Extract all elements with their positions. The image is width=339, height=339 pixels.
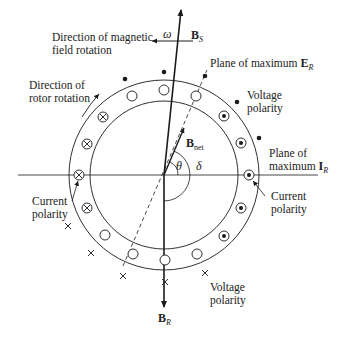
conductor-dot <box>236 203 246 213</box>
bnet-label: Bnet <box>186 137 204 154</box>
conductor-empty <box>127 91 137 101</box>
theta-label: θ <box>176 160 182 173</box>
conductor-cross <box>74 170 84 180</box>
rotor-rotation-label: Direction of rotor rotation <box>29 79 90 105</box>
bs-label-sub: S <box>199 35 203 44</box>
conductor-empty <box>128 249 138 259</box>
conductor-cross <box>82 139 92 149</box>
current-polarity-right-line1: Current <box>271 190 307 203</box>
br-label-sub: R <box>166 318 171 327</box>
plane-max-ir-line2: maximum IR <box>269 160 328 177</box>
plane-max-er-text: Plane of maximum <box>210 57 300 69</box>
conductor-dot <box>219 231 229 241</box>
conductor-empty <box>100 230 110 240</box>
bnet-label-main: B <box>186 136 194 150</box>
current-polarity-left-leader <box>72 181 78 201</box>
voltage-polarity-top-line2: polarity <box>247 102 283 115</box>
conductor-cross <box>98 112 108 122</box>
conductor-dot <box>236 138 246 148</box>
bnet-label-sub: net <box>194 143 204 152</box>
voltage-polarity-bottom-line1: Voltage <box>210 281 246 294</box>
plane-max-ir-label: Plane of maximum IR <box>269 147 328 177</box>
br-label: BR <box>158 312 171 329</box>
delta-label: δ <box>196 160 202 173</box>
br-label-main: B <box>158 311 166 325</box>
mag-field-rotation-line1: Direction of magnetic <box>52 31 153 44</box>
voltage-polarity-top-line1: Voltage <box>247 89 283 102</box>
plane-max-ir-text: maximum <box>269 160 319 172</box>
conductor-empty <box>191 91 201 101</box>
conductor-dot <box>219 111 229 121</box>
omega-label: ω <box>163 28 171 41</box>
mag-field-rotation-line2: field rotation <box>52 44 153 57</box>
current-polarity-left-label: Current polarity <box>32 195 68 221</box>
plane-max-ir-sub: R <box>323 166 328 175</box>
voltage-polarity-top-label: Voltage polarity <box>247 89 283 115</box>
conductor-dot <box>244 170 254 180</box>
plane-max-er-label: Plane of maximum ER <box>210 57 313 74</box>
voltage-polarity-bottom-label: Voltage polarity <box>210 281 246 307</box>
rotor-rotation-line1: Direction of <box>29 79 90 92</box>
current-polarity-right-line2: polarity <box>271 203 307 216</box>
plane-max-er-sub: R <box>308 63 313 72</box>
rotor-rotation-line2: rotor rotation <box>29 92 90 105</box>
current-polarity-left-line1: Current <box>32 195 68 208</box>
diagram-canvas: Direction of magnetic field rotation ω B… <box>0 0 339 339</box>
voltage-polarity-bottom-line2: polarity <box>210 294 246 307</box>
current-polarity-right-label: Current polarity <box>271 190 307 216</box>
conductor-empty <box>159 85 169 95</box>
conductor-empty <box>160 255 170 265</box>
bs-label-main: B <box>191 28 199 42</box>
conductor-empty <box>192 249 202 259</box>
current-polarity-left-line2: polarity <box>32 208 68 221</box>
mag-field-rotation-label: Direction of magnetic field rotation <box>52 31 153 57</box>
conductor-cross <box>82 203 92 213</box>
bs-label: BS <box>191 29 203 46</box>
